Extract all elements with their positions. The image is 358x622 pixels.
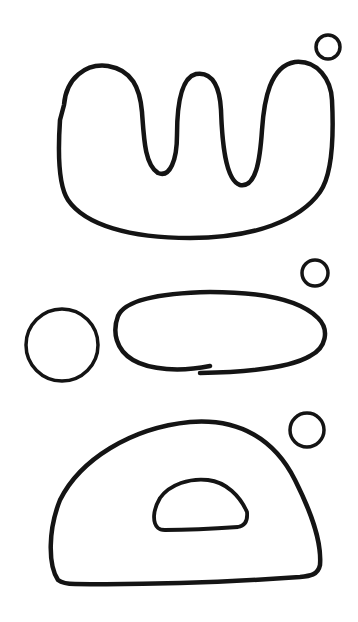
ink-sketch-canvas [0,0,358,622]
group-bottom [51,413,324,584]
dome-shape [51,422,320,585]
small-circle-middle [302,260,328,286]
group-top [59,35,340,238]
small-circle-bottom [290,413,324,447]
small-circle-top [316,35,340,59]
wave-blob-shape [59,62,333,238]
group-middle [26,260,328,381]
long-ellipse-shape [115,292,325,373]
circle-left [26,309,98,381]
inner-half-dome-shape [154,480,247,530]
